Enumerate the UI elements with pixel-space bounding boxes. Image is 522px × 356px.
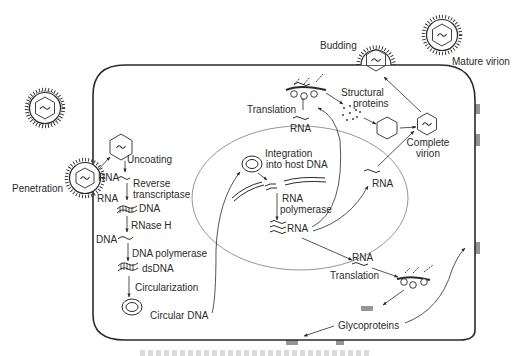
label-budding: Budding	[320, 40, 357, 51]
label-rna-transcripts: RNA	[287, 223, 308, 234]
label-structural: Structural	[341, 87, 384, 98]
label-dna-single: DNA	[96, 234, 117, 245]
rna-dna-hybrid	[117, 206, 137, 213]
label-reverse: Reverse	[133, 178, 170, 189]
dsdna-glyph	[118, 263, 138, 271]
label-virion: virion	[405, 148, 451, 159]
nuclear-circular-dna	[242, 156, 262, 172]
label-circular-dna: Circular DNA	[150, 310, 208, 321]
label-integration: Integration	[265, 148, 312, 159]
label-translation-lower: Translation	[330, 270, 379, 281]
label-rna-polymerase-1: RNA	[282, 193, 303, 204]
label-proteins: proteins	[353, 98, 389, 109]
label-penetration: Penetration	[12, 183, 63, 194]
label-complete: Complete	[405, 137, 451, 148]
free-virion	[27, 90, 64, 127]
label-rna-template: RNA	[97, 193, 118, 204]
budding-virion	[358, 47, 394, 71]
complete-virion	[418, 113, 437, 135]
label-rna-polymerase-2: polymerase	[280, 204, 332, 215]
label-mature-virion: Mature virion	[452, 56, 510, 67]
label-dsdna: dsDNA	[142, 263, 174, 274]
rna-transcripts	[270, 221, 286, 234]
figure-caption-truncated	[140, 350, 370, 356]
label-rna-mid: RNA	[372, 178, 393, 189]
label-rna-top: RNA	[290, 123, 311, 134]
polysome-top	[286, 74, 326, 99]
mature-virion	[424, 17, 461, 54]
label-rna-genome: RNA	[98, 172, 119, 183]
label-dna-polymerase: DNA polymerase	[132, 248, 207, 259]
label-rnase-h: RNase H	[131, 220, 172, 231]
label-dna-hybrid: DNA	[139, 203, 160, 214]
label-uncoating: Uncoating	[127, 154, 172, 165]
glycoprotein-cluster	[362, 306, 372, 311]
circular-dna-glyph	[122, 299, 142, 315]
label-circularization: Circularization	[135, 282, 198, 293]
host-dna	[232, 177, 326, 201]
polysome-lower	[397, 265, 433, 288]
diagram-canvas	[0, 0, 522, 356]
label-into-host-dna: into host DNA	[266, 159, 328, 170]
label-translation-top: Translation	[247, 104, 296, 115]
label-glycoproteins: Glycoproteins	[338, 320, 399, 331]
empty-capsid	[377, 117, 397, 139]
label-transcriptase: transcriptase	[133, 189, 190, 200]
retrovirus-life-cycle-diagram	[0, 0, 522, 356]
label-rna-lower: RNA	[352, 252, 373, 263]
